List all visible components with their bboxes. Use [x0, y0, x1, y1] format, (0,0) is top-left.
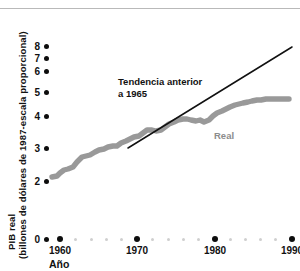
trend-annotation-line2: a 1965	[118, 88, 202, 100]
gdp-trend-chart: PIB real (billones de dólares de 1987-es…	[0, 0, 300, 271]
plot-area	[0, 0, 300, 271]
real-series-label: Real	[214, 130, 234, 141]
trend-annotation-line1: Tendencia anterior	[118, 76, 202, 88]
real-gdp-series	[52, 99, 289, 177]
trend-annotation: Tendencia anterior a 1965	[118, 76, 202, 100]
